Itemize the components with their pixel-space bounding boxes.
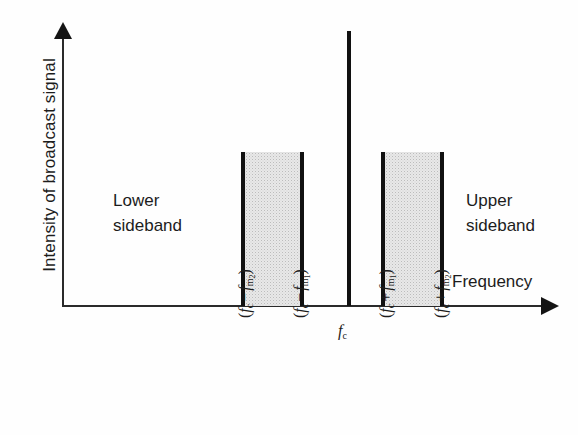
upper-sideband-caption: Upper sideband [466,189,535,238]
x-tick-label-upper-inner: (fc+fm1) [377,208,395,318]
upper-sideband-caption-line1: Upper [466,189,535,214]
x-tick-label-carrier: fc [338,322,347,340]
x-axis-title: Frequency [452,272,532,292]
lower-sideband-caption-line1: Lower [113,189,182,214]
y-axis-title: Intensity of broadcast signal [40,20,60,310]
lower-sideband-caption: Lower sideband [113,189,182,238]
carrier-frequency-spike [347,31,351,306]
x-tick-label-lower-inner: (fc−fm1) [291,208,309,318]
x-tick-label-upper-outer: (fc+fm2) [432,208,450,318]
am-spectrum-figure: Intensity of broadcast signal Frequency … [0,0,578,435]
lower-sideband-caption-line2: sideband [113,214,182,239]
upper-sideband-caption-line2: sideband [466,214,535,239]
x-axis-arrowhead-icon [541,297,559,315]
x-tick-label-lower-outer: (fc−fm2) [236,208,254,318]
y-axis-line [62,36,64,306]
